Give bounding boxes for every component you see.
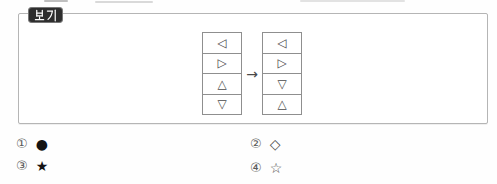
- down-triangle-icon: ▽: [203, 95, 241, 115]
- option-1-number: ①: [16, 137, 28, 150]
- question-page: ◁ ▷ △ ▽ → ◁ ▷ ▽ △ ① ● ② ◇ ③ ★ ④ ☆: [0, 0, 497, 184]
- left-triangle-icon: ◁: [263, 33, 301, 54]
- right-triangle-icon: ▷: [203, 54, 241, 75]
- left-symbol-table: ◁ ▷ △ ▽: [202, 32, 242, 115]
- option-4-number: ④: [250, 161, 262, 174]
- option-3[interactable]: ③ ★: [16, 158, 48, 173]
- scan-artifact: [95, 1, 153, 3]
- scan-artifact: [44, 0, 68, 2]
- symbol-tables: ◁ ▷ △ ▽ → ◁ ▷ ▽ △: [202, 32, 302, 115]
- left-triangle-icon: ◁: [203, 33, 241, 54]
- up-triangle-icon: △: [203, 74, 241, 95]
- star-outline-icon: ☆: [270, 161, 283, 175]
- option-2[interactable]: ② ◇: [250, 136, 280, 151]
- down-triangle-icon: ▽: [263, 74, 301, 95]
- up-triangle-icon: △: [263, 95, 301, 115]
- right-symbol-table: ◁ ▷ ▽ △: [262, 32, 302, 115]
- transform-arrow-icon: →: [242, 67, 262, 81]
- example-badge-label: [34, 9, 58, 22]
- option-2-number: ②: [250, 137, 262, 150]
- option-3-number: ③: [16, 159, 28, 172]
- right-triangle-icon: ▷: [263, 54, 301, 75]
- filled-circle-icon: ●: [36, 137, 48, 151]
- example-box: ◁ ▷ △ ▽ → ◁ ▷ ▽ △: [18, 13, 488, 124]
- option-1[interactable]: ① ●: [16, 136, 48, 151]
- example-badge: [28, 7, 63, 23]
- option-4[interactable]: ④ ☆: [250, 160, 282, 175]
- diamond-outline-icon: ◇: [270, 137, 281, 151]
- filled-star-icon: ★: [36, 159, 49, 173]
- scan-artifact: [300, 0, 405, 2]
